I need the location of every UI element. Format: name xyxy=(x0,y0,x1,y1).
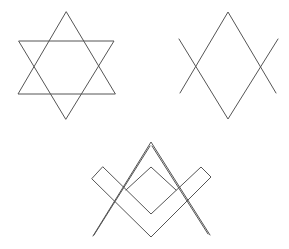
hexagram-icon xyxy=(18,12,115,119)
symbols-figure xyxy=(0,0,289,249)
square-and-compass-icon xyxy=(92,142,211,237)
crossed-diamond-icon xyxy=(179,12,278,119)
